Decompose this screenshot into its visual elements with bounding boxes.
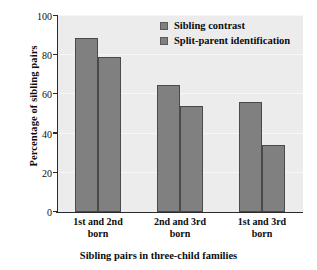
bar-chart: Percentage of sibling pairs 020406080100… [0,0,317,270]
x-label-line-1: 1st and 3rd [238,216,286,227]
y-axis-tick [53,15,58,16]
legend-label: Sibling contrast [174,20,245,31]
legend-swatch-icon [160,22,168,30]
y-axis-tick [53,172,58,173]
y-axis-tick-labels: 020406080100 [24,16,52,212]
x-label-line-2: born [221,228,303,240]
y-axis-tick-label: 100 [26,11,52,22]
y-axis-tick-label: 80 [26,50,52,61]
x-label-line-1: 2nd and 3rd [154,216,206,227]
legend-item-split-parent-identification: Split-parent identification [160,35,290,46]
y-axis-tick-label: 0 [26,207,52,218]
y-axis-tick [53,54,58,55]
y-axis-tick [53,93,58,94]
x-label-line-1: 1st and 2nd [73,216,122,227]
bar [262,145,285,212]
x-axis-category-label: 1st and 2ndborn [57,216,139,239]
legend-swatch-icon [160,37,168,45]
bar [157,85,180,212]
x-axis-title: Sibling pairs in three-child families [0,250,317,261]
bar [180,106,203,212]
y-axis-tick-label: 40 [26,128,52,139]
legend-item-sibling-contrast: Sibling contrast [160,20,290,31]
gridline [58,15,303,16]
y-axis-tick-label: 60 [26,89,52,100]
x-label-line-2: born [57,228,139,240]
legend: Sibling contrast Split-parent identifica… [160,20,290,46]
x-axis-line [56,212,303,213]
y-axis-tick [53,132,58,133]
x-axis-category-label: 1st and 3rdborn [221,216,303,239]
bar [75,38,98,212]
x-axis-category-label: 2nd and 3rdborn [139,216,221,239]
y-axis-tick-label: 20 [26,167,52,178]
x-label-line-2: born [139,228,221,240]
legend-label: Split-parent identification [174,35,290,46]
bar [239,102,262,212]
bar [98,57,121,212]
x-axis-category-labels: 1st and 2ndborn2nd and 3rdborn1st and 3r… [57,216,302,248]
